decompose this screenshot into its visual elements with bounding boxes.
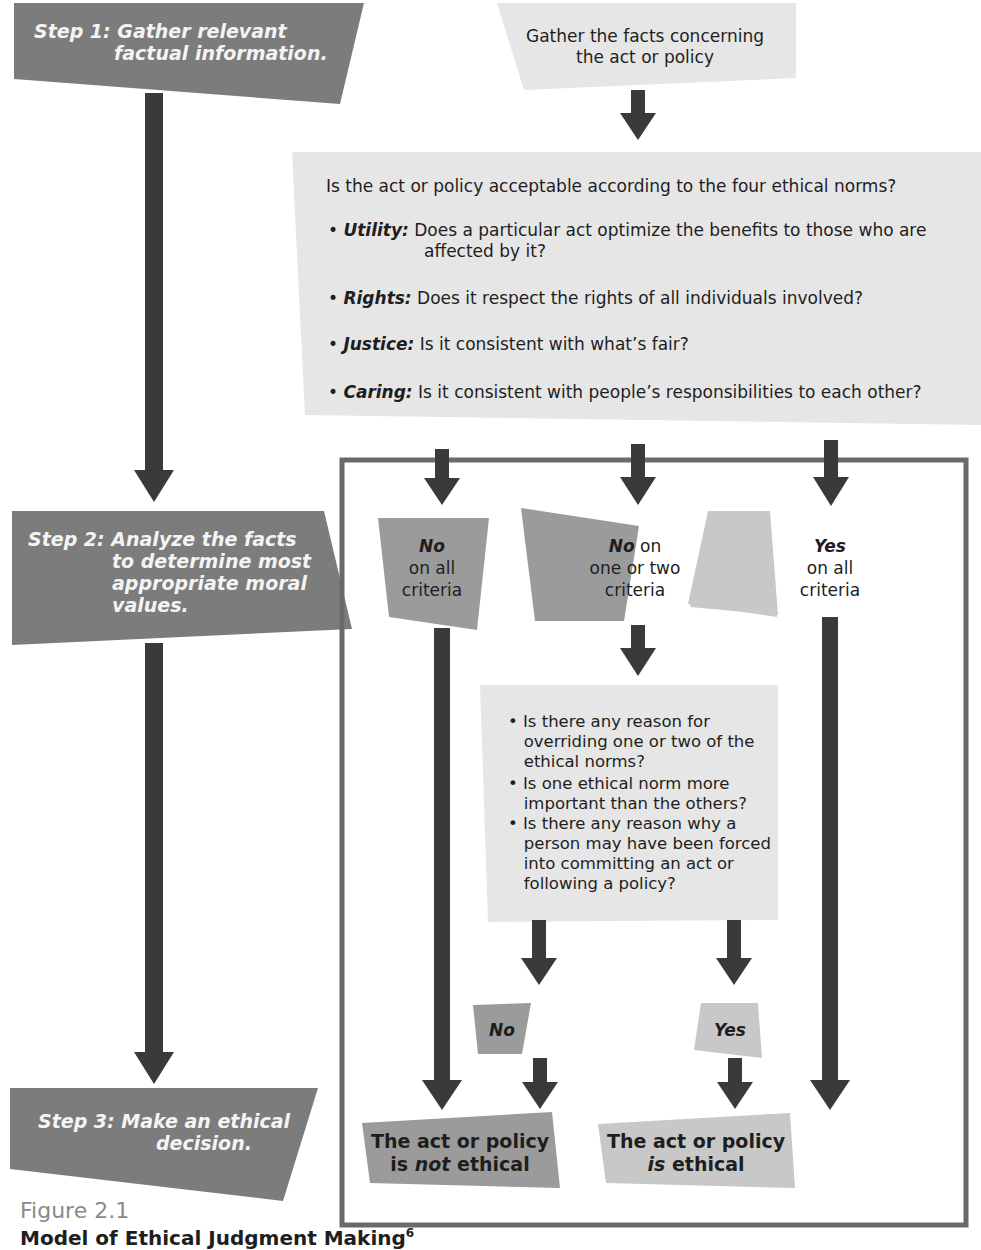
outcome-yes-all-text: Yes on allcriteria <box>775 535 885 601</box>
norms-question: Is the act or policy acceptable accordin… <box>326 176 896 197</box>
step3-text: Step 3: Make an ethical decision. <box>38 1110 290 1154</box>
result-ethical-text: The act or policy is ethical <box>600 1130 792 1176</box>
left-arrow-2 <box>134 643 174 1084</box>
figure-number: Figure 2.1 <box>20 1198 129 1223</box>
norm-caring: • Caring: Is it consistent with people’s… <box>328 382 922 403</box>
step1-text: Step 1: Gather relevant factual informat… <box>34 20 328 64</box>
override-bullet-3: • Is there any reason why a person may h… <box>508 814 771 894</box>
norm-utility: • Utility: Does a particular act optimiz… <box>328 220 926 262</box>
norm-rights: • Rights: Does it respect the rights of … <box>328 288 863 309</box>
gather-facts-text: Gather the facts concerningthe act or po… <box>500 26 790 68</box>
arrow-gather-to-norms <box>620 90 656 140</box>
outcome-no-some-text: No on one or twocriteria <box>565 535 705 601</box>
override-bullet-1: • Is there any reason for overriding one… <box>508 712 754 772</box>
figure-title: Model of Ethical Judgment Making6 <box>20 1226 414 1250</box>
left-arrow-1 <box>134 93 174 502</box>
result-not-ethical-text: The act or policy is not ethical <box>365 1130 555 1176</box>
override-bullet-2: • Is one ethical norm more important tha… <box>508 774 747 814</box>
small-no-text: No <box>476 1020 528 1041</box>
outcome-no-all-text: No on allcriteria <box>380 535 484 601</box>
norm-justice: • Justice: Is it consistent with what’s … <box>328 334 689 355</box>
step2-text: Step 2: Analyze the facts to determine m… <box>28 528 311 616</box>
small-yes-text: Yes <box>700 1020 760 1041</box>
